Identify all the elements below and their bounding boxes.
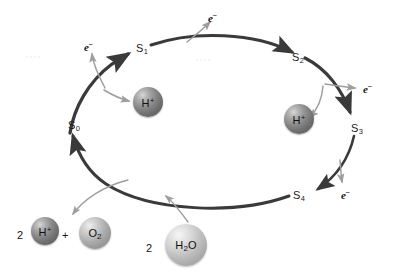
branch-products-out	[73, 180, 128, 214]
arc-s1-to-s2	[151, 35, 292, 52]
arc-s4-to-s0	[73, 136, 289, 208]
reactant-water-sphere: H2O	[165, 224, 207, 266]
proton-label-right: H+	[293, 112, 306, 126]
reactant-coefficient: 2	[146, 243, 152, 254]
product-oxygen-label: O2	[88, 227, 101, 239]
product-proton-sphere: H+	[31, 217, 59, 245]
plus-sign: +	[62, 230, 68, 241]
branch-water-in	[166, 196, 188, 222]
branch-electron-s2-s3	[325, 84, 355, 88]
product-proton-label: H+	[39, 224, 52, 238]
product-oxygen-sphere: O2	[79, 217, 111, 249]
arc-s0-to-s1	[70, 54, 128, 133]
proton-sphere-right: H+	[284, 104, 314, 134]
proton-sphere-left: H+	[133, 87, 163, 117]
branch-electron-s1-s2	[187, 22, 210, 42]
proton-label-left: H+	[142, 95, 155, 109]
branch-proton-s0-s1	[104, 90, 129, 101]
product-coefficient: 2	[17, 230, 23, 241]
reactant-water-label: H2O	[175, 239, 196, 251]
arc-s3-to-s4	[318, 136, 354, 189]
diagram-canvas: ▪▪▪▪ ▪▪▪▪	[0, 0, 398, 274]
